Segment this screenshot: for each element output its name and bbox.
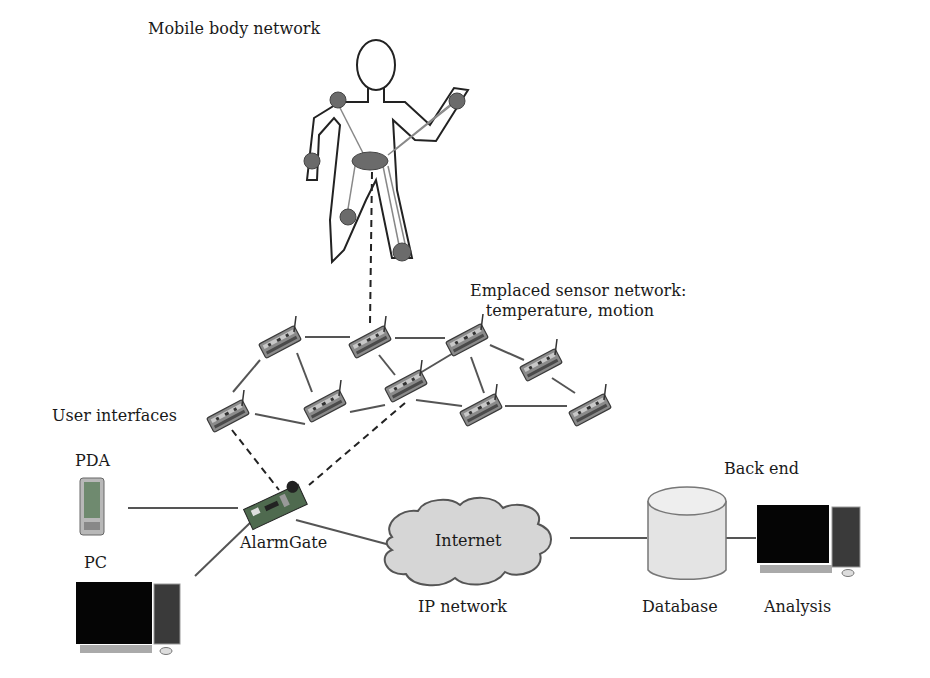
sensor-node-icon: [520, 339, 563, 381]
database-cylinder-icon: [648, 487, 726, 579]
desktop-computer-icon: [76, 582, 180, 655]
desktop-computer-icon: [757, 505, 860, 577]
database-label: Database: [642, 598, 718, 616]
sensor-node-icon: [460, 384, 503, 426]
sensor-nodes: [207, 314, 612, 432]
sensor-node-icon: [259, 316, 302, 358]
pda-label: PDA: [75, 452, 110, 470]
human-figure-icon: [307, 40, 468, 262]
pda-icon: [80, 478, 104, 535]
emplaced-sensor-network-label-line1: Emplaced sensor network:: [470, 282, 670, 300]
internet-label: Internet: [435, 532, 501, 550]
ip-network-label: IP network: [418, 598, 507, 616]
pc-label: PC: [84, 554, 107, 572]
sensor-node-icon: [385, 360, 428, 402]
back-end-label: Back end: [724, 460, 799, 478]
circuit-board-icon: [241, 479, 307, 530]
network-diagram: [0, 0, 930, 678]
user-interfaces-label: User interfaces: [52, 407, 177, 425]
mobile-body-network-label: Mobile body network: [148, 20, 320, 38]
sensor-node-icon: [207, 390, 250, 432]
alarmgate-label: AlarmGate: [240, 534, 327, 552]
analysis-label: Analysis: [764, 598, 831, 616]
sensor-node-icon: [569, 384, 612, 426]
emplaced-sensor-network-label-line2: temperature, motion: [470, 302, 670, 320]
